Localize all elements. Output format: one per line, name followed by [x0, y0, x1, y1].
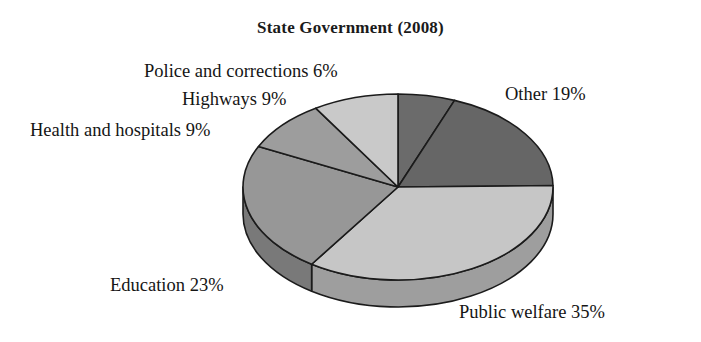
slice-label-police-and-corrections: Police and corrections 6%	[144, 62, 338, 81]
slice-label-education: Education 23%	[110, 276, 224, 295]
pie-chart-figure: State Government (2008) Police and corre…	[0, 0, 701, 342]
slice-label-highways: Highways 9%	[182, 90, 286, 109]
slice-label-other: Other 19%	[505, 85, 586, 104]
pie-chart-graphic	[0, 0, 701, 342]
slice-label-public-welfare: Public welfare 35%	[459, 303, 605, 322]
pie-top-face	[243, 94, 553, 280]
slice-label-health-and-hospitals: Health and hospitals 9%	[30, 121, 210, 140]
